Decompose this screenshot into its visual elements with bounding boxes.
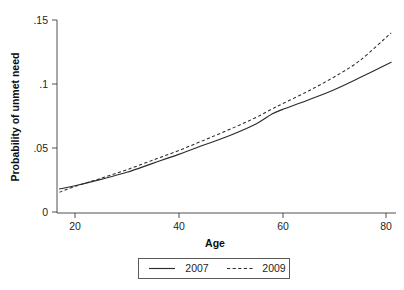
x-tick-label-40: 40 (173, 220, 185, 232)
x-axis: 20 40 60 80 Age (57, 213, 396, 249)
probability-of-unmet-need-line-chart: .15 .1 .05 0 Probability of unmet need 2… (0, 0, 404, 290)
x-tick-label-80: 80 (380, 220, 392, 232)
y-tick-label-0: 0 (42, 206, 48, 218)
y-axis-title: Probability of unmet need (9, 53, 21, 182)
y-axis: .15 .1 .05 0 Probability of unmet need (9, 14, 57, 218)
series-line-2007 (59, 62, 391, 189)
series-line-2009 (59, 33, 391, 192)
y-tick-label-0.15: .15 (33, 14, 48, 26)
legend-label-2007: 2007 (185, 262, 209, 274)
plot-series-group (59, 33, 391, 192)
y-tick-label-0.05: .05 (33, 142, 48, 154)
legend-label-2009: 2009 (262, 262, 286, 274)
chart-legend: 2007 2009 (139, 259, 290, 279)
x-axis-title: Age (205, 237, 225, 249)
chart-figure: .15 .1 .05 0 Probability of unmet need 2… (0, 0, 404, 290)
y-tick-label-0.1: .1 (39, 78, 48, 90)
x-tick-label-20: 20 (69, 220, 81, 232)
x-tick-label-60: 60 (277, 220, 289, 232)
